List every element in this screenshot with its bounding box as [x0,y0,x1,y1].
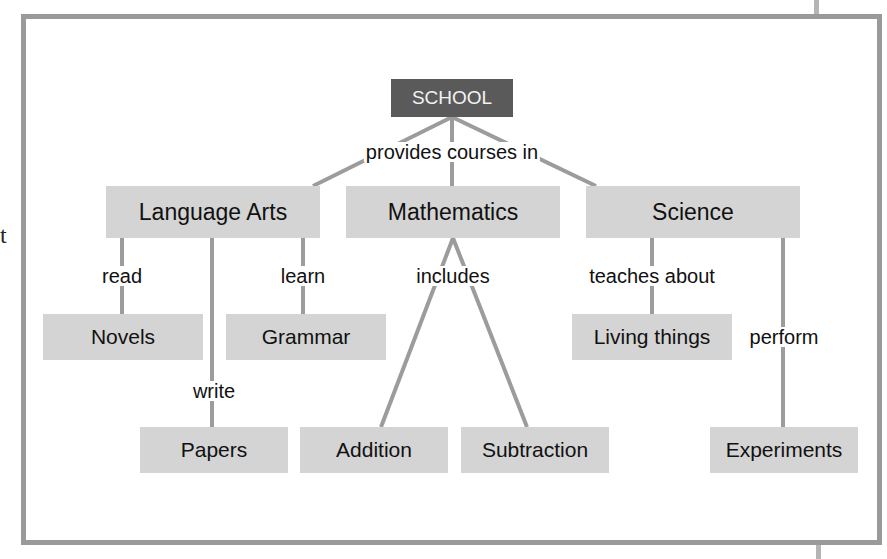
link-label-includes: includes [414,266,491,286]
link-label-learn: learn [279,266,327,286]
link-label-read: read [100,266,144,286]
node-grammar: Grammar [226,314,386,360]
link-label-perform: perform [748,327,821,347]
link-label-teaches-about: teaches about [587,266,717,286]
link-label-write: write [191,381,237,401]
node-language-arts: Language Arts [106,186,320,238]
node-mathematics: Mathematics [346,186,560,238]
node-experiments: Experiments [710,427,858,473]
node-science: Science [586,186,800,238]
node-papers: Papers [140,427,288,473]
node-living-things: Living things [572,314,732,360]
node-subtraction: Subtraction [461,427,609,473]
node-novels: Novels [43,314,203,360]
node-school: SCHOOL [391,79,513,117]
link-label-provides: provides courses in [364,142,540,162]
node-addition: Addition [300,427,448,473]
